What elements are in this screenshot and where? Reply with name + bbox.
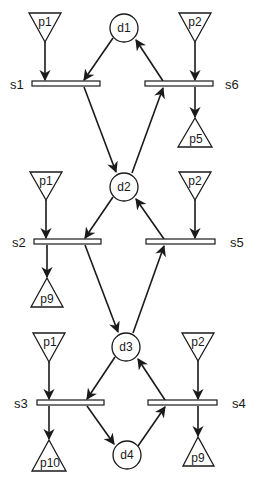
- transition-s4: [148, 400, 217, 405]
- petri-net-diagram: s1 s6 s2 s5 s3 s4 p1 p2 p1 p2 p1 p2: [0, 0, 258, 487]
- edge-d4-s4: [138, 407, 165, 446]
- svg-text:p2: p2: [188, 174, 202, 188]
- svg-text:p2: p2: [191, 335, 205, 349]
- svg-text:d4: d4: [120, 448, 134, 462]
- edge-d2-s2: [85, 197, 113, 238]
- edge-s1-d2: [84, 87, 116, 172]
- svg-text:p1: p1: [43, 335, 57, 349]
- label-s5: s5: [230, 235, 244, 250]
- svg-text:p10: p10: [40, 456, 60, 470]
- label-s4: s4: [232, 396, 246, 411]
- transition-s1: [32, 81, 100, 86]
- place-p2-bottom: p2: [182, 333, 214, 361]
- label-s6: s6: [225, 77, 239, 92]
- place-p5: p5: [178, 118, 212, 147]
- edge-d3-s5: [133, 246, 164, 333]
- edge-s3-d4: [87, 406, 114, 444]
- edge-d3-s3: [87, 357, 115, 399]
- place-d4: d4: [113, 441, 141, 469]
- label-s2: s2: [12, 235, 26, 250]
- place-p2-middle: p2: [179, 172, 211, 200]
- edge-s6-d1: [136, 40, 163, 81]
- transition-s6: [145, 81, 213, 86]
- svg-text:p1: p1: [38, 15, 52, 29]
- place-d2: d2: [110, 173, 138, 201]
- place-d3: d3: [112, 333, 140, 361]
- svg-text:p9: p9: [191, 451, 205, 465]
- place-p9-left: p9: [31, 278, 63, 307]
- place-p10: p10: [32, 440, 66, 471]
- edge-d2-s6: [132, 88, 163, 173]
- label-s1: s1: [10, 77, 24, 92]
- svg-text:d1: d1: [117, 21, 131, 35]
- svg-text:p5: p5: [189, 132, 203, 146]
- edge-s2-d3: [85, 245, 118, 332]
- place-p1-middle: p1: [30, 172, 62, 200]
- place-p9-right: p9: [183, 437, 214, 466]
- svg-text:d2: d2: [117, 180, 131, 194]
- circle-places: d1 d2 d3 d4: [110, 14, 141, 469]
- edge-s5-d2: [136, 199, 164, 239]
- transition-s5: [146, 239, 215, 244]
- label-s3: s3: [14, 396, 28, 411]
- transition-s3: [37, 400, 104, 405]
- svg-text:p2: p2: [188, 15, 202, 29]
- output-places: p5 p9 p10 p9: [31, 118, 214, 471]
- place-p1-bottom: p1: [33, 333, 65, 362]
- place-p2-top: p2: [179, 13, 211, 42]
- place-p1-top: p1: [29, 13, 61, 42]
- edge-d1-s1: [84, 38, 113, 80]
- svg-text:p1: p1: [39, 174, 53, 188]
- place-d1: d1: [110, 14, 138, 42]
- edge-s4-d3: [138, 359, 165, 400]
- transition-s2: [34, 239, 101, 244]
- svg-text:d3: d3: [119, 340, 133, 354]
- svg-text:p9: p9: [40, 292, 54, 306]
